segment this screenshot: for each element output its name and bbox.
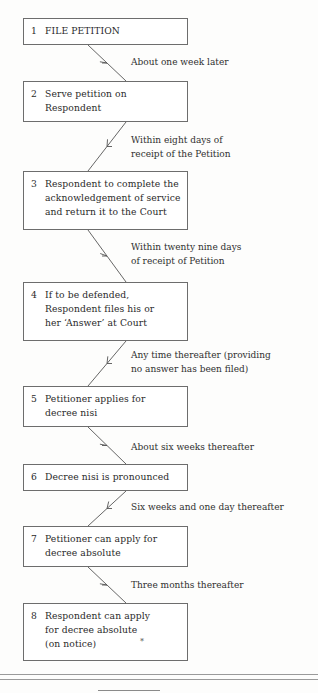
interval-label-5: About six weeks thereafter <box>131 440 254 454</box>
step-number: 3 <box>31 177 43 191</box>
step-number: 2 <box>31 87 43 101</box>
footnote-marker: * <box>140 637 144 646</box>
step-text: Respondent to complete the acknowledgeme… <box>45 177 181 219</box>
interval-label-2: Within eight days of receipt of the Peti… <box>131 133 231 161</box>
interval-label-7: Three months thereafter <box>131 578 244 592</box>
step-text: Petitioner can apply for decree absolute <box>45 532 181 560</box>
step-text: Decree nisi is pronounced <box>45 470 181 484</box>
step-text: Petitioner applies for decree nisi <box>45 392 181 420</box>
step-box-4: 4 If to be defended, Respondent files hi… <box>23 282 188 341</box>
step-box-6: 6 Decree nisi is pronounced <box>23 464 188 491</box>
step-number: 8 <box>31 609 43 623</box>
page-rule-top <box>0 674 318 675</box>
step-box-3: 3 Respondent to complete the acknowledge… <box>23 171 188 230</box>
step-text: FILE PETITION <box>45 24 181 38</box>
step-text: Serve petition on Respondent <box>45 87 181 115</box>
step-box-5: 5 Petitioner applies for decree nisi <box>23 386 188 427</box>
footnote-rule <box>98 690 160 691</box>
step-number: 7 <box>31 532 43 546</box>
step-box-7: 7 Petitioner can apply for decree absolu… <box>23 526 188 567</box>
step-number: 4 <box>31 288 43 302</box>
step-number: 6 <box>31 470 43 484</box>
step-box-2: 2 Serve petition on Respondent <box>23 81 188 122</box>
step-number: 1 <box>31 24 43 38</box>
step-text: Respondent can apply for decree absolute… <box>45 609 181 651</box>
interval-label-4: Any time thereafter (providing no answer… <box>131 348 271 376</box>
step-box-8: 8 Respondent can apply for decree absolu… <box>23 603 188 661</box>
page-rule-bottom <box>0 679 318 680</box>
interval-label-6: Six weeks and one day thereafter <box>131 500 284 514</box>
step-box-1: 1 FILE PETITION <box>23 18 188 45</box>
step-text: If to be defended, Respondent files his … <box>45 288 181 330</box>
interval-label-1: About one week later <box>131 55 229 69</box>
interval-label-3: Within twenty nine days of receipt of Pe… <box>131 240 241 268</box>
step-number: 5 <box>31 392 43 406</box>
